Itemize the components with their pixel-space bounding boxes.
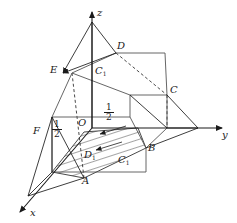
vertex-label-B: B <box>148 143 155 153</box>
vertex-label-C-sub-base: C <box>95 65 103 76</box>
figure-canvas <box>0 0 237 223</box>
measurement-half-center-denominator: 2 <box>104 113 114 122</box>
vertex-label-C-sub-index: 1 <box>103 70 107 77</box>
vertex-label-F: F <box>33 126 40 136</box>
origin-label-O: O <box>78 118 86 128</box>
shaded-cross-section <box>52 128 146 178</box>
vertex-label-C: C <box>170 85 178 95</box>
vertex-label-D1-base: D <box>84 149 92 160</box>
axis-label-z: z <box>97 8 102 18</box>
measurement-half-left: 1 2 <box>52 120 62 140</box>
vertex-label-E: E <box>50 65 57 75</box>
vertex-label-C1-index: 1 <box>126 159 130 166</box>
axis-label-y: y <box>222 130 228 140</box>
vertex-label-A: A <box>82 176 89 186</box>
axis-label-x: x <box>30 208 36 218</box>
vertex-label-C1: C1 <box>118 155 129 165</box>
vertex-label-D1-index: 1 <box>92 154 96 161</box>
vertex-label-D1: D1 <box>84 150 96 160</box>
vertex-label-C-sub: C1 <box>95 66 106 76</box>
measurement-half-center: 1 2 <box>104 103 114 123</box>
vertex-label-D: D <box>117 41 125 51</box>
geometry-figure: z y x O D E C1 C F B A D1 C1 1 2 1 2 <box>0 0 237 223</box>
vertex-label-C1-base: C <box>118 154 126 165</box>
measurement-half-left-denominator: 2 <box>52 130 62 139</box>
